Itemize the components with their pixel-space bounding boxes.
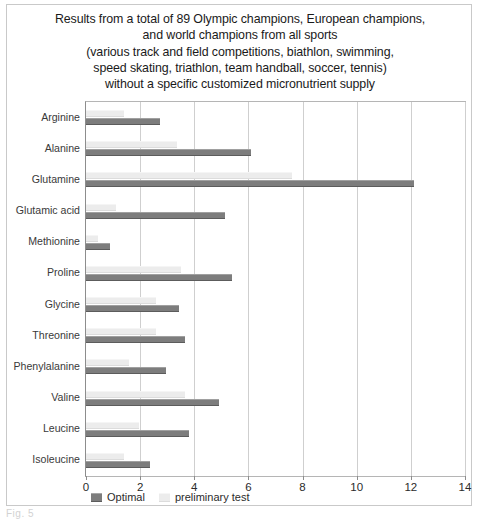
legend-item-optimal[interactable]: Optimal xyxy=(91,491,145,503)
legend-label-optimal: Optimal xyxy=(107,491,145,503)
bar-preliminary-test xyxy=(86,235,98,242)
chart-row: Glycine xyxy=(86,289,465,320)
y-axis-category-label: Phenylalanine xyxy=(0,360,80,372)
bar-optimal xyxy=(86,461,150,468)
chart-row: Glutamine xyxy=(86,164,465,195)
bar-optimal xyxy=(86,118,160,125)
chart-row: Isoleucine xyxy=(86,445,465,476)
x-axis-tick xyxy=(411,476,412,480)
y-axis-category-label: Proline xyxy=(0,266,80,278)
bar-preliminary-test xyxy=(86,110,124,117)
title-line-4: speed skating, triathlon, team handball,… xyxy=(7,60,473,76)
x-axis-tick xyxy=(248,476,249,480)
bar-optimal xyxy=(86,399,219,406)
y-axis-category-label: Alanine xyxy=(0,142,80,154)
title-line-1: Results from a total of 89 Olympic champ… xyxy=(7,11,473,27)
gridline xyxy=(465,102,466,476)
x-axis-tick xyxy=(140,476,141,480)
x-axis-tick xyxy=(357,476,358,480)
chart-row: Glutamic acid xyxy=(86,196,465,227)
y-axis-category-label: Threonine xyxy=(0,329,80,341)
chart-row: Threonine xyxy=(86,320,465,351)
bar-optimal xyxy=(86,274,232,281)
bar-preliminary-test xyxy=(86,391,185,398)
legend-swatch-preliminary-icon xyxy=(159,493,170,502)
plot-area: 02468101214ArginineAlanineGlutamineGluta… xyxy=(85,101,466,477)
chart-row: Alanine xyxy=(86,133,465,164)
chart-row: Arginine xyxy=(86,102,465,133)
bar-optimal xyxy=(86,180,414,187)
x-axis-tick xyxy=(303,476,304,480)
bar-preliminary-test xyxy=(86,422,139,429)
bar-preliminary-test xyxy=(86,328,156,335)
chart-row: Methionine xyxy=(86,227,465,258)
chart-title: Results from a total of 89 Olympic champ… xyxy=(7,11,473,92)
chart-row: Phenylalanine xyxy=(86,351,465,382)
figure-panel: Results from a total of 89 Olympic champ… xyxy=(6,4,472,506)
bar-optimal xyxy=(86,367,166,374)
y-axis-category-label: Valine xyxy=(0,391,80,403)
chart-row: Leucine xyxy=(86,414,465,445)
title-line-5: without a specific customized micronutri… xyxy=(7,76,473,92)
x-axis-tick xyxy=(465,476,466,480)
y-axis-category-label: Glutamine xyxy=(0,173,80,185)
legend-item-preliminary[interactable]: preliminary test xyxy=(159,491,250,503)
title-line-2: and world champions from all sports xyxy=(7,27,473,43)
y-axis-category-label: Leucine xyxy=(0,422,80,434)
bar-preliminary-test xyxy=(86,141,177,148)
legend-label-preliminary: preliminary test xyxy=(175,491,250,503)
x-axis-tick xyxy=(86,476,87,480)
x-axis-tick xyxy=(194,476,195,480)
chart-legend: Optimal preliminary test xyxy=(91,491,249,503)
y-axis-category-label: Glycine xyxy=(0,298,80,310)
bar-optimal xyxy=(86,243,110,250)
x-axis-tick-label: 14 xyxy=(445,481,479,493)
y-axis-category-label: Arginine xyxy=(0,111,80,123)
bar-optimal xyxy=(86,212,225,219)
bar-optimal xyxy=(86,430,189,437)
bar-optimal xyxy=(86,305,179,312)
bar-optimal xyxy=(86,336,185,343)
y-axis-category-label: Glutamic acid xyxy=(0,204,80,216)
x-axis-tick-label: 10 xyxy=(337,481,377,493)
chart-row: Valine xyxy=(86,383,465,414)
x-axis-tick-label: 8 xyxy=(283,481,323,493)
bar-preliminary-test xyxy=(86,359,129,366)
x-axis-tick-label: 12 xyxy=(391,481,431,493)
bar-preliminary-test xyxy=(86,204,116,211)
bar-preliminary-test xyxy=(86,266,181,273)
title-line-3: (various track and field competitions, b… xyxy=(7,44,473,60)
bar-preliminary-test xyxy=(86,297,156,304)
chart-row: Proline xyxy=(86,258,465,289)
y-axis-category-label: Methionine xyxy=(0,235,80,247)
y-axis-category-label: Isoleucine xyxy=(0,453,80,465)
legend-swatch-optimal-icon xyxy=(91,493,102,502)
bar-preliminary-test xyxy=(86,172,292,179)
bar-optimal xyxy=(86,149,251,156)
figure-caption: Fig. 5 xyxy=(6,508,34,519)
bar-preliminary-test xyxy=(86,453,124,460)
